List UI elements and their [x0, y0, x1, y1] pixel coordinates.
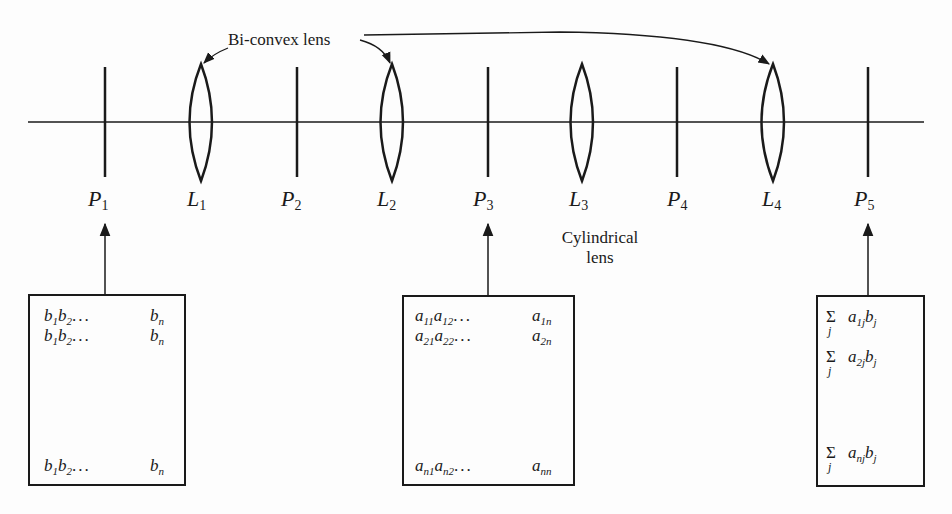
- cylindrical-label-line2: lens: [556, 248, 644, 268]
- result-row-n: Σ j anjbj: [826, 444, 836, 461]
- vector-row-1: b1b2...: [44, 307, 91, 327]
- matrix-row-n-last: ann: [532, 457, 552, 477]
- cylindrical-label-line1: Cylindrical: [556, 228, 644, 248]
- cylindrical-lens-label: Cylindrical lens: [556, 228, 644, 268]
- label-p3: P3: [473, 188, 493, 213]
- bi-convex-lens-label: Bi-convex lens: [228, 30, 330, 50]
- label-l3: L3: [569, 188, 588, 213]
- result-row-2: Σ j a2jbj: [826, 348, 836, 365]
- vector-row-n: b1b2...: [44, 457, 91, 477]
- matrix-row-2: a21a22...: [415, 327, 473, 347]
- label-p5: P5: [854, 188, 874, 213]
- vector-row-1-last: bn: [150, 307, 164, 327]
- vector-row-2: b1b2...: [44, 327, 91, 347]
- matrix-row-n: an1an2...: [415, 457, 473, 477]
- arrow-to-l4: [364, 32, 769, 64]
- label-l2: L2: [377, 188, 396, 213]
- label-l1: L1: [187, 188, 206, 213]
- optical-matrix-multiplier-diagram: Bi-convex lens Cylindrical lens P1 L1 P2…: [0, 0, 952, 514]
- vector-row-n-last: bn: [150, 457, 164, 477]
- vector-row-2-last: bn: [150, 327, 164, 347]
- result-row-1: Σ j a1jbj: [826, 308, 836, 325]
- matrix-row-1-last: a1n: [532, 307, 552, 327]
- matrix-row-2-last: a2n: [532, 327, 552, 347]
- label-p2: P2: [281, 188, 301, 213]
- arrow-to-l2: [360, 40, 390, 63]
- arrow-to-l1: [204, 48, 228, 63]
- label-p1: P1: [88, 188, 108, 213]
- label-l4: L4: [762, 188, 781, 213]
- label-p4: P4: [667, 188, 687, 213]
- matrix-row-1: a11a12...: [415, 307, 472, 327]
